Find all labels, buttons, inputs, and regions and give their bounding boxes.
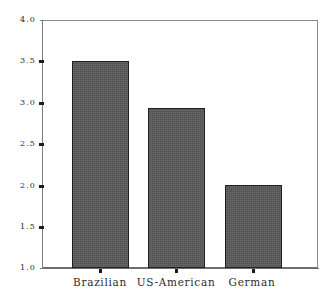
y-tick-label-2-0: 2.0 xyxy=(20,182,36,190)
x-tick-label-brazilian: Brazilian xyxy=(60,276,140,289)
y-tick-label-1-5: 1.5 xyxy=(20,223,36,231)
y-tick-mark-2-0 xyxy=(39,185,44,188)
x-tick-mark-german xyxy=(252,269,255,273)
x-tick-label-us-american: US-American xyxy=(133,276,219,289)
y-tick-mark-1-5 xyxy=(39,226,44,229)
x-tick-mark-us-american xyxy=(175,269,178,273)
bar-us-american xyxy=(148,108,205,268)
y-tick-label-3-5: 3.5 xyxy=(20,57,36,65)
y-tick-mark-3-0 xyxy=(39,102,44,105)
bar-german xyxy=(225,185,282,268)
x-axis-line xyxy=(42,268,319,269)
y-tick-label-1-0: 1.0 xyxy=(20,264,36,272)
bar-chart: 4.0 3.5 3.0 2.5 2.0 1.5 1.0 Brazilian US… xyxy=(0,0,335,302)
y-tick-mark-2-5 xyxy=(39,143,44,146)
y-tick-label-4-0: 4.0 xyxy=(20,16,36,24)
y-tick-mark-3-5 xyxy=(39,60,44,63)
x-tick-label-german: German xyxy=(215,276,289,289)
y-tick-mark-1-0 xyxy=(40,268,44,269)
y-tick-label-2-5: 2.5 xyxy=(20,140,36,148)
y-tick-label-3-0: 3.0 xyxy=(20,99,36,107)
bar-brazilian xyxy=(72,61,129,268)
y-tick-mark-4-0 xyxy=(40,20,44,21)
x-tick-mark-brazilian xyxy=(99,269,102,273)
